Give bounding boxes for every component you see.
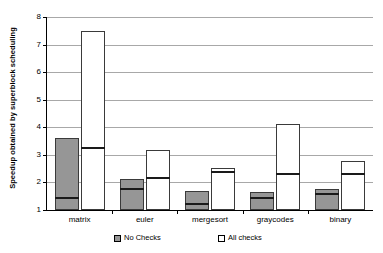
y-axis-tick-label: 1 bbox=[37, 206, 41, 214]
x-axis-tick-label-matrix: matrix bbox=[69, 216, 91, 224]
close-marker-graycodes-all-checks bbox=[276, 173, 300, 175]
legend-swatch-icon bbox=[114, 235, 121, 242]
legend-item-all-checks[interactable]: All checks bbox=[218, 231, 262, 245]
x-axis-tick-mark bbox=[243, 210, 244, 214]
bar-graycodes-no-checks bbox=[250, 192, 274, 210]
close-marker-binary-all-checks bbox=[341, 173, 365, 175]
chart-legend: No ChecksAll checks bbox=[46, 231, 372, 245]
y-axis-tick-mark bbox=[43, 17, 47, 18]
bar-matrix-all-checks bbox=[81, 31, 105, 210]
bar-mergesort-all-checks bbox=[211, 168, 235, 210]
y-axis-tick-mark bbox=[43, 100, 47, 101]
bar-binary-no-checks bbox=[315, 189, 339, 210]
x-axis-tick-label-binary: binary bbox=[329, 216, 351, 224]
gridline bbox=[47, 17, 373, 18]
y-axis-title: Speedup obtained by superblock schedulin… bbox=[6, 8, 20, 208]
y-axis-tick-label: 4 bbox=[37, 123, 41, 131]
bar-euler-all-checks bbox=[146, 150, 170, 210]
legend-item-no-checks[interactable]: No Checks bbox=[114, 231, 161, 245]
y-axis-tick-mark bbox=[43, 182, 47, 183]
close-marker-graycodes-no-checks bbox=[250, 197, 274, 199]
chart-container: Speedup obtained by superblock schedulin… bbox=[0, 0, 383, 253]
y-axis-tick-mark bbox=[43, 72, 47, 73]
legend-label: No Checks bbox=[124, 234, 161, 242]
close-marker-binary-no-checks bbox=[315, 193, 339, 195]
plot-area: 12345678matrixeulermergesortgraycodesbin… bbox=[46, 17, 373, 211]
y-axis-tick-label: 5 bbox=[37, 96, 41, 104]
close-marker-mergesort-no-checks bbox=[185, 203, 209, 205]
bar-graycodes-all-checks bbox=[276, 124, 300, 210]
y-axis-tick-mark bbox=[43, 155, 47, 156]
x-axis-tick-mark bbox=[112, 210, 113, 214]
close-marker-euler-no-checks bbox=[120, 188, 144, 190]
y-axis-tick-label: 8 bbox=[37, 13, 41, 21]
y-axis-tick-label: 2 bbox=[37, 178, 41, 186]
x-axis-tick-mark bbox=[308, 210, 309, 214]
y-axis-tick-label: 3 bbox=[37, 151, 41, 159]
legend-label: All checks bbox=[228, 234, 262, 242]
y-axis-tick-label: 7 bbox=[37, 41, 41, 49]
close-marker-mergesort-all-checks bbox=[211, 171, 235, 173]
close-marker-matrix-no-checks bbox=[55, 197, 79, 199]
close-marker-matrix-all-checks bbox=[81, 147, 105, 149]
y-axis-tick-mark bbox=[43, 45, 47, 46]
y-axis-tick-label: 6 bbox=[37, 68, 41, 76]
x-axis-tick-label-euler: euler bbox=[136, 216, 154, 224]
close-marker-euler-all-checks bbox=[146, 177, 170, 179]
bar-matrix-no-checks bbox=[55, 138, 79, 210]
x-axis-tick-mark bbox=[177, 210, 178, 214]
bar-euler-no-checks bbox=[120, 179, 144, 210]
bar-mergesort-no-checks bbox=[185, 191, 209, 210]
x-axis-tick-label-mergesort: mergesort bbox=[192, 216, 228, 224]
y-axis-tick-mark bbox=[43, 127, 47, 128]
y-axis-tick-mark bbox=[43, 210, 47, 211]
x-axis-tick-label-graycodes: graycodes bbox=[257, 216, 294, 224]
legend-swatch-icon bbox=[218, 235, 225, 242]
bar-binary-all-checks bbox=[341, 161, 365, 210]
